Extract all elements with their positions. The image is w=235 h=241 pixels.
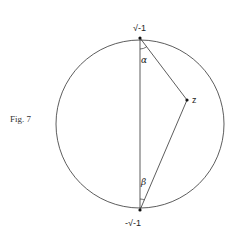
point-top — [138, 36, 141, 39]
label-bottom: -√-1 — [125, 218, 141, 228]
angle-label-alpha: α — [141, 55, 147, 65]
figure-diagram: √-1 -√-1 z α β Fig. 7 — [0, 0, 235, 241]
segment-bottom-to-z — [140, 100, 187, 210]
segment-top-to-z — [140, 38, 187, 100]
label-top: √-1 — [133, 23, 146, 33]
angle-label-beta: β — [140, 177, 146, 187]
point-bottom — [138, 208, 141, 211]
angle-arc-beta — [140, 199, 144, 200]
figure-caption: Fig. 7 — [10, 114, 32, 124]
angle-arc-alpha — [140, 47, 147, 49]
point-z — [185, 98, 188, 101]
label-z: z — [192, 95, 197, 105]
